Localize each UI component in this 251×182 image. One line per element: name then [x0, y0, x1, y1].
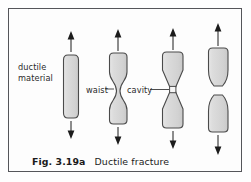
- specimen-body-waisted: [110, 53, 128, 124]
- fracture-fragment-top: [209, 48, 229, 86]
- tension-arrow-up-icon: [215, 23, 222, 46]
- tension-arrow-down-icon: [68, 121, 75, 139]
- cavity-void: [170, 86, 176, 92]
- label-waist: waist: [86, 85, 108, 96]
- tension-arrow-down-icon: [170, 131, 177, 149]
- label-ductile-material: ductile material: [18, 62, 53, 83]
- specimen-upper-neck: [163, 52, 184, 88]
- figure-caption: Fig. 3.19aDuctile fracture: [20, 145, 169, 178]
- specimen-lower-neck: [163, 92, 184, 129]
- stage-2-waisting: [105, 29, 127, 145]
- stage-3-cavity: [150, 28, 183, 149]
- figure-caption-text: Ductile fracture: [95, 156, 170, 167]
- tension-arrow-up-icon: [115, 29, 122, 51]
- tension-arrow-up-icon: [68, 31, 75, 52]
- tension-arrow-down-icon: [215, 135, 222, 155]
- fracture-fragment-bottom: [209, 95, 229, 132]
- tension-arrow-down-icon: [115, 127, 122, 145]
- tension-arrow-up-icon: [170, 28, 177, 50]
- specimen-body-intact: [64, 55, 79, 118]
- stage-4-fractured: [209, 23, 229, 155]
- label-cavity: cavity: [127, 85, 152, 96]
- figure-caption-number: Fig. 3.19a: [32, 156, 86, 167]
- stage-1-intact-bar: [64, 31, 79, 139]
- figure-container: ductile material waist cavity Fig. 3.19a…: [0, 0, 251, 182]
